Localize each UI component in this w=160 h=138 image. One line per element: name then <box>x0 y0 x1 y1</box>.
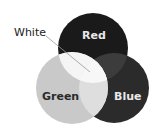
label-blue: Blue <box>114 90 141 103</box>
venn-diagram <box>0 0 160 138</box>
label-white: White <box>14 26 46 39</box>
label-red: Red <box>82 29 106 42</box>
label-green: Green <box>42 90 79 103</box>
